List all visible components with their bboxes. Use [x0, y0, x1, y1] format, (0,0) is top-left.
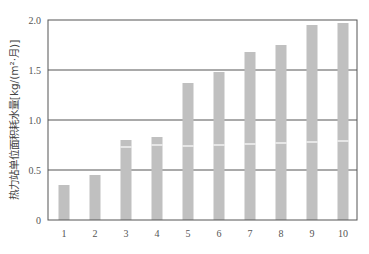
y-axis-label: 热力站单位面积耗水量[kg/(m²·月)] [8, 40, 20, 200]
y-tick-label: 0 [36, 215, 41, 226]
bar [121, 140, 132, 220]
x-tick-label: 4 [155, 228, 160, 239]
x-axis-ticks: 12345678910 [62, 228, 349, 239]
x-tick-label: 9 [310, 228, 315, 239]
bar [214, 72, 225, 220]
bars [59, 23, 349, 220]
bar-chart: 00.51.01.52.0 12345678910 热力站单位面积耗水量[kg/… [0, 0, 369, 254]
x-tick-label: 7 [248, 228, 253, 239]
y-tick-label: 0.5 [29, 165, 42, 176]
x-tick-label: 6 [217, 228, 222, 239]
x-tick-label: 3 [124, 228, 129, 239]
y-tick-label: 2.0 [29, 15, 42, 26]
x-tick-label: 10 [338, 228, 348, 239]
x-tick-label: 1 [62, 228, 67, 239]
y-axis-ticks: 00.51.01.52.0 [29, 15, 42, 226]
bar [90, 175, 101, 220]
bar [307, 25, 318, 220]
y-tick-label: 1.5 [29, 65, 42, 76]
bar [152, 137, 163, 220]
bar [183, 83, 194, 220]
bar [338, 23, 349, 220]
x-tick-label: 8 [279, 228, 284, 239]
bar [276, 45, 287, 220]
x-tick-label: 2 [93, 228, 98, 239]
bar [245, 52, 256, 220]
x-tick-label: 5 [186, 228, 191, 239]
bar [59, 185, 70, 220]
y-tick-label: 1.0 [29, 115, 42, 126]
